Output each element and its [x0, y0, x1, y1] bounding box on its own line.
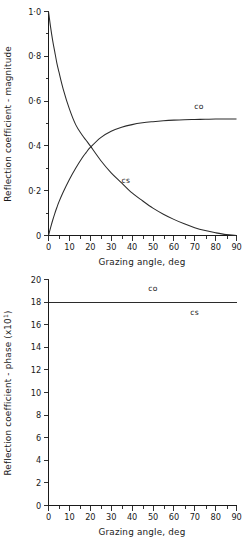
phase-ytick-label-3: 6	[36, 433, 41, 443]
curve-label-cs-magnitude: cs	[121, 176, 130, 185]
magnitude-ytick-label-1: 0·2	[28, 186, 41, 196]
phase-ytick-label-4: 8	[36, 410, 41, 420]
chart-reflection-phase: 0 2 4 6 8 10 12 14 16 18 20	[0, 271, 246, 542]
magnitude-xtick-label-2: 20	[85, 242, 95, 252]
phase-ytick-label-10: 20	[31, 275, 41, 285]
magnitude-ytick-label-2: 0·4	[28, 141, 41, 151]
magnitude-plot-svg: 0 0·2 0·4 0·6 0·8 1·0	[0, 0, 246, 271]
magnitude-ytick-label-3: 0·6	[28, 96, 41, 106]
phase-xtick-label-4: 40	[127, 512, 137, 522]
phase-ytick-label-0: 0	[36, 501, 41, 511]
phase-ytick-label-6: 12	[31, 365, 41, 375]
magnitude-xtick-label-5: 50	[148, 242, 158, 252]
curve-label-cs-phase: cs	[190, 308, 199, 317]
magnitude-axes	[49, 12, 237, 236]
phase-xtick-label-3: 30	[106, 512, 116, 522]
magnitude-xtick-label-1: 10	[64, 242, 74, 252]
phase-plot-svg: 0 2 4 6 8 10 12 14 16 18 20	[0, 271, 246, 542]
phase-ytick-label-5: 10	[31, 388, 41, 398]
phase-xtick-label-1: 10	[64, 512, 74, 522]
phase-ytick-label-9: 18	[31, 297, 41, 307]
magnitude-xtick-label-8: 80	[211, 242, 221, 252]
phase-yaxis-title-close: )	[3, 310, 13, 314]
magnitude-xtick-label-9: 90	[231, 242, 241, 252]
curve-label-co-phase: co	[148, 284, 157, 293]
phase-xtick-label-2: 20	[85, 512, 95, 522]
magnitude-xtick-label-6: 60	[169, 242, 179, 252]
magnitude-xtick-label-3: 30	[106, 242, 116, 252]
magnitude-xaxis-title: Grazing angle, deg	[98, 257, 185, 267]
magnitude-y-ticks	[44, 12, 49, 236]
phase-x-ticks	[49, 506, 237, 511]
magnitude-ytick-label-0: 0	[36, 231, 41, 241]
phase-y-ticks	[44, 280, 49, 506]
phase-axes	[49, 280, 237, 506]
phase-xtick-label-6: 60	[169, 512, 179, 522]
chart-reflection-magnitude: 0 0·2 0·4 0·6 0·8 1·0	[0, 0, 246, 271]
phase-xtick-label-8: 80	[211, 512, 221, 522]
phase-ytick-label-1: 2	[36, 478, 41, 488]
magnitude-xtick-label-0: 0	[46, 242, 51, 252]
phase-ytick-label-8: 16	[31, 320, 41, 330]
magnitude-ytick-label-4: 0·8	[28, 51, 41, 61]
phase-ytick-label-2: 4	[36, 455, 41, 465]
curve-label-co-magnitude: co	[194, 102, 203, 111]
curve-co-magnitude	[49, 119, 237, 235]
phase-yaxis-title: Reflection coefficient - phase (x101)	[2, 310, 13, 475]
magnitude-x-ticks	[49, 236, 237, 241]
phase-xtick-label-9: 90	[231, 512, 241, 522]
magnitude-xtick-label-4: 40	[127, 242, 137, 252]
phase-xaxis-title: Grazing angle, deg	[98, 527, 185, 537]
phase-xtick-label-5: 50	[148, 512, 158, 522]
magnitude-yaxis-title: Reflection coefficient - magnitude	[3, 46, 13, 202]
phase-ytick-label-7: 14	[31, 342, 41, 352]
phase-xtick-label-7: 70	[190, 512, 200, 522]
curve-cs-magnitude	[49, 12, 237, 236]
magnitude-ytick-label-5: 1·0	[28, 7, 41, 17]
magnitude-xtick-label-7: 70	[190, 242, 200, 252]
phase-xtick-label-0: 0	[46, 512, 51, 522]
phase-yaxis-title-main: Reflection coefficient - phase (x10	[3, 318, 13, 476]
